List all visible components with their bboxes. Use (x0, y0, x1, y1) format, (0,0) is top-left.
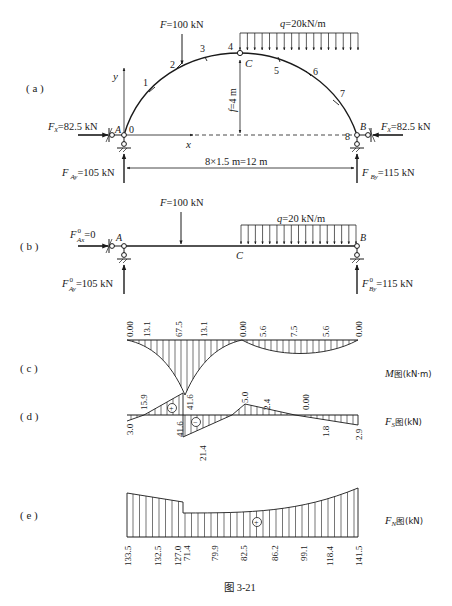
svg-text:0.00: 0.00 (238, 321, 248, 337)
label-FAx0: F0Ax=0 (69, 227, 95, 244)
svg-text:86.2: 86.2 (270, 545, 280, 561)
label-q-b: q=20 kN/m (277, 213, 325, 224)
section-ticks (149, 57, 339, 105)
svg-text:67.5: 67.5 (174, 321, 184, 337)
point-1: 1 (143, 77, 148, 88)
arch-axis (124, 53, 357, 135)
panel-d-shear-diagram: ( d ) + − 15.9 41.6 5.0 2.4 0.00 3.0 41.… (20, 391, 422, 461)
svg-text:5.6: 5.6 (321, 325, 331, 337)
label-FBy: FBy=115 kN (361, 167, 415, 181)
svg-text:41.6: 41.6 (175, 421, 185, 437)
svg-text:+: + (254, 518, 259, 527)
figure-3-21: ( a ) 0 1 2 3 4 5 6 7 8 C y (0, 0, 452, 606)
label-C-b: C (236, 250, 244, 261)
svg-text:118.4: 118.4 (325, 546, 335, 566)
panel-d-label: ( d ) (20, 410, 39, 423)
svg-text:5.0: 5.0 (240, 391, 250, 403)
q-load-arrows (240, 33, 358, 50)
svg-text:13.1: 13.1 (142, 321, 152, 337)
svg-text:−: − (193, 418, 198, 427)
svg-text:0.00: 0.00 (301, 394, 311, 410)
point-4: 4 (228, 41, 233, 52)
shear-values: 15.9 41.6 5.0 2.4 0.00 3.0 41.6 21.4 1.8… (125, 391, 364, 461)
panel-c-label: ( c ) (20, 362, 38, 375)
label-Fx-right: Fx=82.5 kN (380, 121, 431, 134)
shear-diagram-title: FS图(kN) (384, 416, 422, 429)
svg-text:41.6: 41.6 (185, 394, 195, 410)
point-2: 2 (170, 59, 175, 70)
q-load-b-arrows (241, 225, 356, 244)
label-x: x (185, 138, 191, 150)
label-FAy0: F0Ay=105 kN (61, 276, 113, 293)
label-B-b: B (360, 232, 366, 243)
svg-text:7.5: 7.5 (289, 325, 299, 337)
svg-text:+: + (169, 404, 174, 413)
axial-values: 133.5 132.5 127.0 71.4 79.9 82.5 86.2 99… (123, 545, 364, 566)
label-y: y (112, 70, 118, 82)
moment-diagram-title: M图(kN·m) (384, 368, 432, 379)
label-B: B (360, 121, 366, 132)
axial-hatching (133, 490, 354, 537)
svg-text:5.6: 5.6 (258, 325, 268, 337)
label-Fx-left: Fx=82.5 kN (47, 121, 98, 134)
moment-curve-left (127, 340, 185, 395)
axial-outline (127, 488, 358, 537)
panel-e-label: ( e ) (20, 509, 38, 522)
svg-text:21.4: 21.4 (198, 445, 208, 461)
label-F-b: F=100 kN (159, 197, 204, 208)
moment-hatching (133, 340, 355, 391)
label-q-a: q=20kN/m (280, 18, 326, 29)
svg-text:2.9: 2.9 (354, 428, 364, 440)
panel-b-label: ( b ) (20, 240, 39, 253)
hinge-C (237, 50, 242, 55)
label-F-a: F=100 kN (159, 19, 204, 30)
label-span: 8×1.5 m=12 m (205, 156, 267, 167)
point-7: 7 (340, 88, 345, 99)
label-C: C (245, 57, 253, 69)
svg-text:79.9: 79.9 (210, 545, 220, 561)
svg-text:3.0: 3.0 (125, 423, 135, 435)
moment-curve-right (242, 340, 358, 354)
point-5: 5 (274, 65, 279, 76)
svg-text:82.5: 82.5 (239, 545, 249, 561)
point-8: 8 (345, 131, 350, 142)
point-6: 6 (313, 66, 318, 77)
svg-text:132.5: 132.5 (153, 545, 163, 566)
svg-text:0.00: 0.00 (354, 321, 364, 337)
panel-b: ( b ) F=100 kN q=20 kN/m C A B (20, 197, 413, 294)
svg-text:0.00: 0.00 (125, 321, 135, 337)
panel-c-moment-diagram: ( c ) 0.00 13.1 67.5 13.1 0.00 5.6 7.5 5… (20, 321, 432, 395)
axial-diagram-title: FN图(kN) (384, 515, 423, 528)
panel-a-label: ( a ) (26, 82, 44, 95)
svg-text:133.5: 133.5 (123, 545, 133, 566)
svg-text:141.5: 141.5 (354, 545, 364, 566)
panel-a: ( a ) 0 1 2 3 4 5 6 7 8 C y (26, 18, 431, 183)
label-A: A (114, 124, 122, 135)
section-point-labels: 0 1 2 3 4 5 6 7 8 (129, 41, 350, 142)
svg-text:1.8: 1.8 (321, 425, 331, 437)
moment-values: 0.00 13.1 67.5 13.1 0.00 5.6 7.5 5.6 0.0… (125, 321, 364, 337)
svg-text:71.4: 71.4 (182, 545, 192, 561)
label-A-b: A (115, 232, 123, 243)
figure-caption: 图 3-21 (224, 582, 256, 593)
svg-text:13.1: 13.1 (199, 321, 209, 337)
label-FBy0: F0By=115 kN (361, 276, 413, 293)
moment-curve-mid (185, 340, 242, 395)
point-3: 3 (200, 43, 205, 54)
label-FAy: FAy=105 kN (61, 167, 115, 181)
svg-text:2.4: 2.4 (262, 398, 272, 410)
point-0: 0 (129, 124, 134, 135)
svg-text:99.1: 99.1 (299, 545, 309, 561)
label-rise: f=4 m (227, 88, 238, 112)
panel-e-axial-diagram: ( e ) + 133.5 132.5 127.0 71.4 79.9 82.5… (20, 488, 423, 566)
svg-text:15.9: 15.9 (139, 394, 149, 410)
